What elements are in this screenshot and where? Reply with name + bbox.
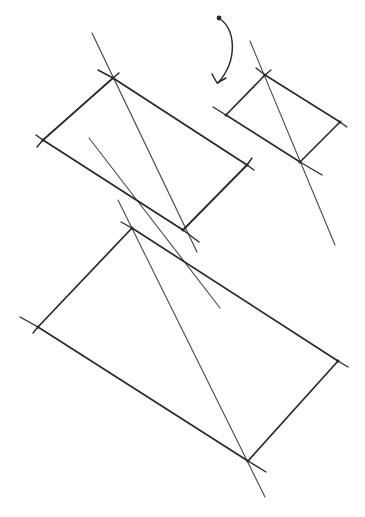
corner-tick xyxy=(20,317,38,327)
corner-point xyxy=(130,226,133,229)
corner-tick xyxy=(248,461,266,472)
corner-point xyxy=(298,160,301,163)
large-upper-rectangle xyxy=(36,70,254,242)
corner-tick xyxy=(338,361,348,367)
arrow-start-dot xyxy=(217,16,222,21)
corner-point xyxy=(224,113,227,116)
sketch-canvas xyxy=(0,0,365,517)
rectangle-outline xyxy=(43,78,247,230)
diagonal-lines xyxy=(89,33,335,497)
corner-point xyxy=(245,163,248,166)
corner-point xyxy=(36,325,39,328)
large-lower-rectangle xyxy=(20,222,348,472)
corner-point xyxy=(263,73,266,76)
corner-point xyxy=(336,359,339,362)
pencil-sketch-diagram xyxy=(0,0,365,517)
corner-point xyxy=(246,459,249,462)
corner-tick xyxy=(213,107,226,115)
small-rect-diagonal xyxy=(250,41,335,245)
lower-rect-diagonal xyxy=(118,200,265,497)
arrow-curve xyxy=(218,18,232,83)
corner-tick xyxy=(256,68,265,75)
rectangle-outline xyxy=(226,75,340,162)
corner-point xyxy=(41,138,44,141)
corner-point xyxy=(111,76,114,79)
corner-point xyxy=(338,120,341,123)
rectangles xyxy=(20,68,348,472)
upper-rect-diagonal xyxy=(92,33,197,252)
rectangle-outline xyxy=(38,228,338,461)
corner-point xyxy=(181,228,184,231)
curved-arrow-icon xyxy=(212,16,232,83)
small-right-rectangle xyxy=(213,68,347,175)
